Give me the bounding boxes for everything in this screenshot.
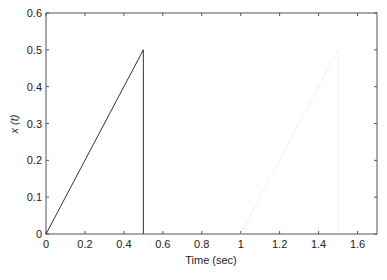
chart: 00.20.40.60.811.21.41.6 00.10.20.30.40.5… xyxy=(0,0,387,280)
x-tick-label: 1.6 xyxy=(350,238,365,250)
x-tick-label: 0 xyxy=(43,238,49,250)
y-tick-label: 0.6 xyxy=(27,7,42,19)
x-tick-label: 0.4 xyxy=(116,238,131,250)
x-tick-label: 1 xyxy=(238,238,244,250)
y-tick-label: 0.4 xyxy=(27,81,42,93)
y-tick-label: 0.3 xyxy=(27,118,42,130)
y-tick-label: 0.5 xyxy=(27,44,42,56)
x-tick-label: 0.8 xyxy=(194,238,209,250)
plot-area xyxy=(46,13,377,234)
y-axis-label: x (t) xyxy=(8,114,20,134)
x-tick-label: 0.2 xyxy=(77,238,92,250)
x-tick-label: 0.6 xyxy=(155,238,170,250)
y-tick-label: 0.2 xyxy=(27,154,42,166)
y-tick-label: 0 xyxy=(36,228,42,240)
y-tick-label: 0.1 xyxy=(27,191,42,203)
x-axis-label: Time (sec) xyxy=(185,254,237,266)
x-tick-label: 1.4 xyxy=(311,238,326,250)
x-tick-label: 1.2 xyxy=(272,238,287,250)
